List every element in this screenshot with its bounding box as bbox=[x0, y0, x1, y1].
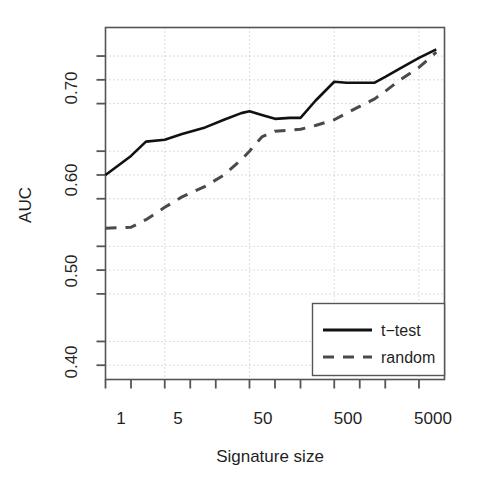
y-tick-label-2: 0.50 bbox=[62, 254, 81, 287]
x-tick-label-2: 50 bbox=[254, 409, 273, 428]
y-tick-label-1: 0.60 bbox=[62, 163, 81, 196]
x-tick-label-0: 1 bbox=[116, 409, 125, 428]
legend-label-t-test: t−test bbox=[381, 322, 421, 339]
x-tick-label-4: 5000 bbox=[414, 409, 452, 428]
auc-vs-signature-size-line-chart: 0.70 0.60 0.50 0.40 1 5 50 500 5000 AUC … bbox=[0, 0, 479, 485]
chart-legend[interactable]: t−test random bbox=[313, 304, 445, 376]
y-axis-title: AUC bbox=[16, 187, 35, 223]
chart-figure: 0.70 0.60 0.50 0.40 1 5 50 500 5000 AUC … bbox=[0, 0, 479, 485]
x-tick-label-1: 5 bbox=[173, 409, 182, 428]
x-tick-label-3: 500 bbox=[334, 409, 362, 428]
y-tick-label-0: 0.70 bbox=[62, 71, 81, 104]
y-tick-label-3: 0.40 bbox=[62, 345, 81, 378]
legend-label-random: random bbox=[381, 349, 435, 366]
x-axis-title: Signature size bbox=[216, 447, 324, 466]
